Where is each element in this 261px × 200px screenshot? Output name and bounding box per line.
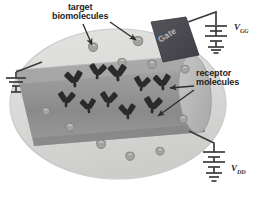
- ground-symbol-top-right: [208, 47, 224, 53]
- target-biomolecule: [179, 115, 187, 123]
- target-biomolecule: [126, 152, 135, 160]
- target-biomolecule: [97, 140, 106, 149]
- target-biomolecule: [66, 123, 75, 131]
- target-biomolecule: [156, 147, 164, 155]
- v-gate-subscript: GG: [240, 28, 249, 34]
- gate-wire: [188, 12, 216, 25]
- target-biomolecule: [133, 37, 142, 46]
- battery-gate-supply: [205, 26, 227, 47]
- target-biomolecule: [42, 108, 50, 115]
- figure-canvas: [0, 0, 261, 200]
- battery-drain-supply: [203, 152, 225, 173]
- label-receptor-line2: molecules: [196, 78, 239, 87]
- label-receptor-molecules: receptor molecules: [196, 69, 239, 87]
- label-target-biomolecules: target biomolecules: [52, 3, 108, 21]
- target-biomolecule: [181, 65, 189, 73]
- target-biomolecule: [148, 60, 157, 68]
- v-drain-subscript: DD: [237, 169, 246, 175]
- biosensor-figure: target biomolecules receptor molecules G…: [0, 0, 261, 200]
- label-gate-voltage: VGG: [234, 22, 249, 34]
- ground-symbol-bottom-right: [206, 173, 222, 181]
- label-drain-voltage: VDD: [231, 163, 246, 175]
- label-target-line2: biomolecules: [52, 12, 108, 21]
- target-biomolecule: [89, 43, 98, 52]
